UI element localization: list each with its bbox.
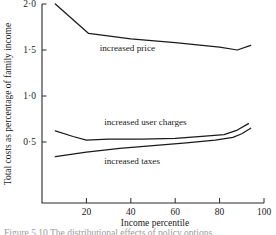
chart-axes [42,4,264,203]
x-tick-label: 60 [170,207,180,217]
x-tick-label: 20 [82,207,92,217]
x-tick-label: 100 [257,207,272,217]
y-axis-title: Total costs as percentage of family inco… [3,23,13,185]
x-tick-label: 80 [215,207,225,217]
y-tick-label: 2·0 [23,0,36,9]
figure-caption: Figure 5.10 The distributional effects o… [4,228,212,235]
series-line-increased-taxes [55,128,250,157]
y-tick-label: 1·0 [23,91,36,101]
x-tick-label: 40 [126,207,136,217]
series-label-increased-taxes: increased taxes [104,156,160,166]
line-chart: 0·51·01·52·020406080100 increased pricei… [0,0,276,235]
chart-series [55,4,250,157]
chart-ticks [42,4,264,203]
series-label-increased-price: increased price [100,43,155,53]
series-label-increased-user-charges: increased user charges [104,117,187,127]
axis-spine [42,4,264,203]
x-axis-title: Income percentile [121,218,189,228]
figure-container: 0·51·01·52·020406080100 increased pricei… [0,0,276,235]
y-tick-label: 0·5 [23,137,36,147]
y-tick-label: 1·5 [23,45,36,55]
chart-series-labels: increased priceincreased user chargesinc… [100,43,187,165]
chart-tick-labels: 0·51·01·52·020406080100 [23,0,271,217]
